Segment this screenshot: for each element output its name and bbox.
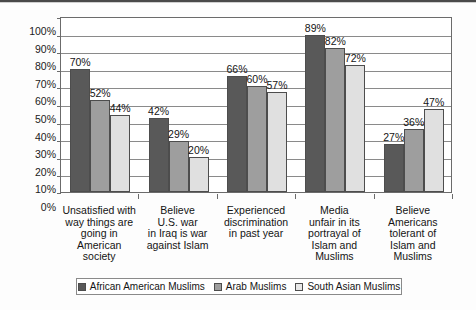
legend-label: African American Muslims (90, 282, 205, 292)
category-label-line: Muslims (295, 251, 373, 263)
bar-value-label: 52% (84, 88, 116, 99)
bar-group: 42%29%20% (139, 18, 217, 192)
bar[interactable] (404, 129, 424, 192)
category-label-line: Media (295, 205, 373, 217)
bar-group: 70%52%44% (61, 18, 139, 192)
category-label-line: Believe (138, 205, 216, 217)
y-tick-label: 20% (35, 167, 56, 177)
category-label-line: Believe (374, 205, 452, 217)
category-label-line: in past year (217, 228, 295, 240)
bar[interactable] (267, 92, 287, 192)
x-axis-tick (217, 194, 218, 199)
y-tick-label: 80% (35, 61, 56, 71)
plot-area: 70%52%44%42%29%20%66%60%57%89%82%72%27%3… (60, 17, 452, 193)
bar[interactable] (227, 76, 247, 192)
bar-group: 66%60%57% (218, 18, 296, 192)
bar[interactable] (345, 65, 365, 192)
bar[interactable] (305, 35, 325, 192)
bar[interactable] (70, 69, 90, 192)
y-tick-label: 40% (35, 132, 56, 142)
legend-label: South Asian Muslims (307, 282, 400, 292)
bar[interactable] (424, 109, 444, 192)
chart-legend: African American MuslimsArab MuslimsSout… (76, 278, 402, 295)
bar[interactable] (247, 86, 267, 192)
bar-group: 89%82%72% (296, 18, 374, 192)
y-tick-label: 90% (35, 44, 56, 54)
y-tick-label: 0% (41, 202, 56, 212)
y-tick-label: 100% (29, 26, 56, 36)
bar-chart-figure: 0%10%20%30%40%50%60%70%80%90%100% 70%52%… (0, 3, 476, 310)
y-tick-label: 50% (35, 114, 56, 124)
x-axis-category-labels: Unsatisfied withway things aregoing inAm… (60, 205, 452, 271)
category-label-line: against Islam (138, 240, 216, 252)
x-axis-tick (138, 194, 139, 199)
bar-value-label: 89% (299, 23, 331, 34)
y-tick-label: 10% (35, 184, 56, 194)
bar-group: 27%36%47% (375, 18, 453, 192)
legend-swatch-icon (78, 283, 86, 291)
bar[interactable] (189, 157, 209, 192)
y-tick-label: 60% (35, 96, 56, 106)
y-tick-label: 70% (35, 79, 56, 89)
bar[interactable] (325, 48, 345, 192)
bar-value-label: 70% (64, 57, 96, 68)
bar-value-label: 47% (418, 97, 450, 108)
category-label-line: Experienced (217, 205, 295, 217)
bar-value-label: 44% (104, 103, 136, 114)
bar[interactable] (90, 100, 110, 192)
plot-wrapper: 0%10%20%30%40%50%60%70%80%90%100% 70%52%… (0, 3, 476, 203)
bar-value-label: 57% (261, 80, 293, 91)
category-label: BelieveAmericanstolerant ofIslam andMusl… (374, 205, 452, 263)
y-axis-tick (57, 193, 61, 194)
bar-value-label: 29% (163, 129, 195, 140)
legend-item[interactable]: Arab Muslims (214, 282, 287, 292)
category-label-line: Unsatisfied with (60, 205, 138, 217)
category-label: Unsatisfied withway things aregoing inAm… (60, 205, 138, 263)
category-label: BelieveU.S. warin Iraq is waragainst Isl… (138, 205, 216, 251)
legend-item[interactable]: African American Muslims (78, 282, 205, 292)
category-label-line: society (60, 251, 138, 263)
x-axis-tick (374, 194, 375, 199)
y-axis: 0%10%20%30%40%50%60%70%80%90%100% (14, 17, 56, 193)
legend-swatch-icon (214, 283, 222, 291)
category-label-line: Muslims (374, 251, 452, 263)
x-axis-tick (295, 194, 296, 199)
category-label: Mediaunfair in itsportrayal ofIslam andM… (295, 205, 373, 263)
bar[interactable] (384, 144, 404, 192)
legend-label: Arab Muslims (226, 282, 287, 292)
x-axis-tick (452, 194, 453, 199)
bar-value-label: 82% (319, 36, 351, 47)
category-label: Experienceddiscriminationin past year (217, 205, 295, 240)
bar-value-label: 72% (339, 53, 371, 64)
legend-item[interactable]: South Asian Muslims (295, 282, 400, 292)
y-tick-label: 30% (35, 149, 56, 159)
bar[interactable] (110, 115, 130, 192)
bar-value-label: 42% (143, 106, 175, 117)
legend-swatch-icon (295, 283, 303, 291)
bar-value-label: 20% (183, 145, 215, 156)
